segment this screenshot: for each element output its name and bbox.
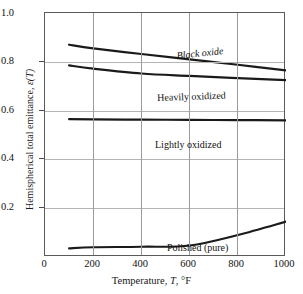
series-label-polished: Polished (pure) — [167, 242, 228, 253]
gridline-vertical-400 — [141, 13, 142, 255]
gridline-horizontal-0.6 — [45, 111, 284, 112]
x-axis-title: Temperature, T, °F — [0, 275, 303, 286]
y-axis-title: Hemispherical total emittance, ε(T) — [24, 25, 35, 255]
x-axis-title-main: Temperature, — [112, 275, 168, 286]
gridline-vertical-800 — [237, 13, 238, 255]
x-tick-label-200: 200 — [84, 259, 100, 270]
curve-heavily-oxidized — [69, 65, 286, 80]
emittance-chart: 1.0 0.8 0.6 0.4 0.2 Black oxide — [0, 0, 303, 294]
gridline-horizontal-0.4 — [45, 159, 284, 160]
y-axis-title-symbol: ε(T) — [24, 69, 35, 85]
x-tick-label-0: 0 — [41, 259, 46, 270]
x-tick-label-400: 400 — [132, 259, 148, 270]
x-tick-label-800: 800 — [228, 259, 244, 270]
series-label-lightly-oxidized: Lightly oxidized — [155, 139, 221, 150]
gridline-vertical-200 — [93, 13, 94, 255]
y-tick-label-0.8: 0.8 — [1, 56, 14, 67]
plot-area: Black oxide Heavily oxidized Lightly oxi… — [44, 12, 285, 256]
y-tick-label-0.4: 0.4 — [1, 153, 14, 164]
x-tick-label-1000: 1000 — [274, 259, 295, 270]
y-tick-label-0.6: 0.6 — [1, 105, 14, 116]
y-axis-title-main: Hemispherical total emittance, — [24, 88, 35, 210]
gridline-horizontal-0.2 — [45, 208, 284, 209]
x-axis-title-unit: , °F — [176, 275, 191, 286]
x-tick-label-600: 600 — [180, 259, 196, 270]
y-tick-label-0.2: 0.2 — [1, 202, 14, 213]
y-tick-label-1.0: 1.0 — [1, 8, 14, 19]
data-curves — [45, 13, 286, 257]
gridline-horizontal-0.8 — [45, 62, 284, 63]
curve-lightly-oxidized — [69, 119, 286, 120]
